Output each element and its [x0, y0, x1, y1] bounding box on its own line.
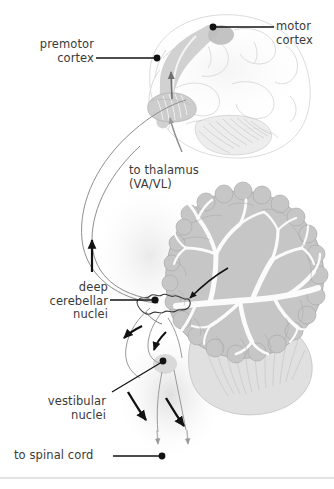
label-deep-cerebellar-nuclei: deepcerebellarnuclei	[26, 281, 108, 322]
dot-dcn	[151, 296, 158, 303]
dot-vestibular	[160, 358, 167, 365]
label-vestibular-nuclei-line1: vestibular	[48, 394, 106, 408]
label-motor-cortex-line1: motor	[276, 19, 311, 33]
vestibular-nuclei-shape	[153, 354, 177, 374]
arrow-spinal-terminal-left	[157, 430, 158, 444]
arrow-spinal-terminal-right	[187, 430, 188, 444]
label-to-thalamus-line2: (VA/VL)	[129, 177, 172, 191]
label-dcn-line2: cerebellar	[50, 294, 109, 308]
dot-spinal	[159, 453, 166, 460]
label-motor-cortex-line2: cortex	[276, 33, 313, 47]
label-vestibular-nuclei: vestibularnuclei	[8, 395, 106, 422]
label-to-thalamus: to thalamus(VA/VL)	[129, 164, 225, 191]
dot-premotor	[154, 55, 161, 62]
label-premotor-cortex-line2: cortex	[57, 51, 94, 65]
label-to-thalamus-line1: to thalamus	[129, 163, 199, 177]
label-premotor-cortex: premotorcortex	[8, 38, 94, 65]
dot-motor	[210, 24, 217, 31]
label-vestibular-nuclei-line2: nuclei	[71, 408, 106, 422]
label-to-spinal-cord: to spinal cord	[14, 449, 110, 463]
label-to-spinal-cord-line1: to spinal cord	[14, 448, 93, 462]
label-dcn-line1: deep	[79, 280, 108, 294]
brainstem-striation	[195, 115, 271, 155]
label-dcn-line3: nuclei	[73, 307, 108, 321]
arrow-thalamus-to-premotor	[171, 72, 172, 99]
cerebellar-pathway-figure: premotorcortex motorcortex to thalamus(V…	[0, 0, 334, 489]
label-motor-cortex: motorcortex	[276, 20, 334, 47]
label-premotor-cortex-line1: premotor	[40, 37, 94, 51]
